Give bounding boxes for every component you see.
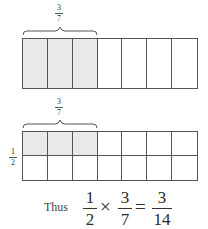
grid-cell (23, 156, 48, 180)
numerator: 1 (86, 189, 95, 206)
fraction-bar (83, 208, 97, 209)
top-fraction-label-2: 3 7 (55, 98, 63, 117)
grid-cell (122, 132, 147, 156)
grid-cell (122, 39, 147, 88)
grid-cell-shaded (73, 39, 98, 88)
grid-cell (172, 156, 197, 180)
grid-cell (48, 156, 73, 180)
grid-cell-shaded (48, 39, 73, 88)
grid-cell (172, 39, 197, 88)
fraction-result: 3 14 (152, 189, 172, 228)
grid-cell (147, 39, 172, 88)
grid-cell (147, 156, 172, 180)
grid-cell (172, 132, 197, 156)
grid-cell-shaded (48, 132, 73, 156)
curly-brace-icon (22, 119, 98, 129)
denominator: 7 (57, 109, 61, 117)
fraction-one-half: 1 2 (83, 189, 97, 228)
numerator: 3 (57, 4, 61, 12)
denominator: 14 (154, 211, 171, 228)
numerator: 1 (11, 148, 15, 156)
denominator: 2 (86, 211, 95, 228)
fraction-bar (118, 208, 132, 209)
fraction-bar (152, 208, 172, 209)
fraction-grid-2 (22, 131, 198, 181)
numerator: 3 (121, 189, 130, 206)
denominator: 7 (57, 15, 61, 23)
fraction-grid-1 (22, 38, 198, 89)
grid-cell (98, 39, 123, 88)
grid-cell (98, 156, 123, 180)
grid-cell-shaded (73, 132, 98, 156)
grid-cell-shaded (23, 39, 48, 88)
grid-cell (122, 156, 147, 180)
denominator: 2 (11, 159, 15, 167)
top-fraction-label-1: 3 7 (55, 4, 63, 23)
fraction-three-sevenths: 3 7 (118, 189, 132, 228)
equation-prefix: Thus (44, 200, 68, 215)
equals-sign: = (135, 196, 146, 218)
numerator: 3 (57, 98, 61, 106)
side-fraction-label: 1 2 (9, 148, 17, 167)
grid-cell-shaded (23, 132, 48, 156)
times-sign: × (100, 196, 111, 218)
denominator: 7 (121, 211, 130, 228)
grid-cell (98, 132, 123, 156)
grid-cell (147, 132, 172, 156)
curly-brace-icon (22, 26, 98, 36)
numerator: 3 (158, 189, 167, 206)
grid-cell (73, 156, 98, 180)
